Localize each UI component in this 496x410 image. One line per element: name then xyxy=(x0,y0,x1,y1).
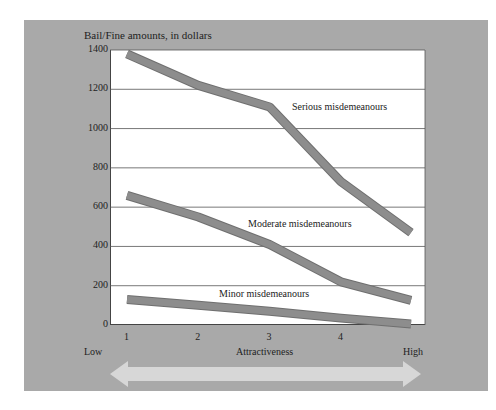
chart-svg: Serious misdemeanours Moderate misdemean… xyxy=(0,0,496,410)
moderate-label: Moderate misdemeanours xyxy=(248,218,352,229)
serious-label: Serious misdemeanours xyxy=(292,101,387,112)
minor-label: Minor misdemeanours xyxy=(219,288,309,299)
series-lines xyxy=(127,54,411,324)
double-arrow-icon xyxy=(110,361,421,387)
series-line xyxy=(127,299,411,324)
gridlines xyxy=(110,50,425,325)
